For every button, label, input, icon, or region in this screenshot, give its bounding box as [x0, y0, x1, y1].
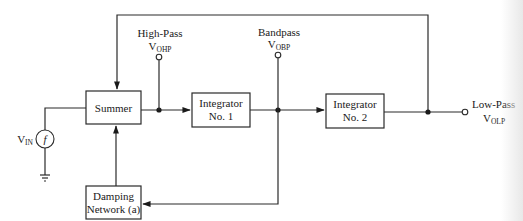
- highpass-label: High-Pass: [137, 27, 182, 39]
- lowpass-terminal: [462, 109, 468, 115]
- damping-label-line1: Damping: [93, 190, 134, 202]
- integrator-1-label-line2: No. 1: [209, 110, 233, 122]
- page-edge-shadow: [501, 0, 523, 221]
- highpass-terminal: [156, 54, 162, 60]
- lowpass-node: [425, 109, 430, 114]
- bandpass-terminal: [275, 52, 281, 58]
- integrator-2-label-line1: Integrator: [333, 98, 377, 110]
- integrator-1-label-line1: Integrator: [199, 97, 243, 109]
- damping-label-line2: Network (a): [87, 203, 141, 216]
- vin-label: VIN: [17, 133, 33, 147]
- integrator-2-label-line2: No. 2: [343, 111, 367, 123]
- input-wire: [45, 108, 86, 130]
- vobp-label: VOBP: [268, 38, 291, 52]
- ground-icon: [40, 175, 50, 181]
- summer-label: Summer: [95, 102, 133, 114]
- state-variable-filter-diagram: f VIN Summer High-Pass VOHP Integrator N…: [0, 0, 523, 221]
- vohp-label: VOHP: [149, 40, 172, 54]
- bandpass-label: Bandpass: [258, 26, 300, 38]
